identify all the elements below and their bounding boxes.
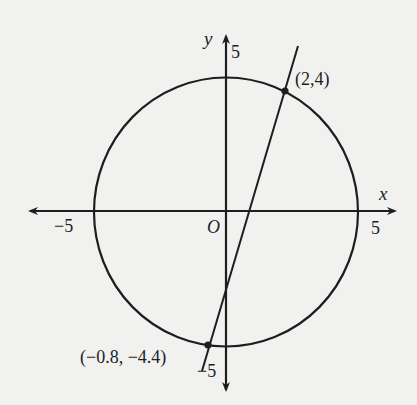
point-label-2-4: (2,4) [295,69,330,90]
secant-line [202,46,298,371]
y-tick-5: 5 [231,42,240,62]
coordinate-diagram: y 5 x 5 −5 O (2,4) (−0.8, −4.4) −5 [0,0,417,405]
x-tick-neg5: −5 [54,216,73,236]
origin-label: O [207,217,220,237]
point-label-neg08-neg44: (−0.8, −4.4) [80,347,166,368]
y-axis-label: y [202,28,213,49]
point-neg08-neg44 [204,341,211,348]
x-axis-label: x [378,183,388,204]
y-tick-neg5: −5 [197,361,216,381]
point-2-4 [281,87,288,94]
x-tick-5: 5 [371,218,380,238]
